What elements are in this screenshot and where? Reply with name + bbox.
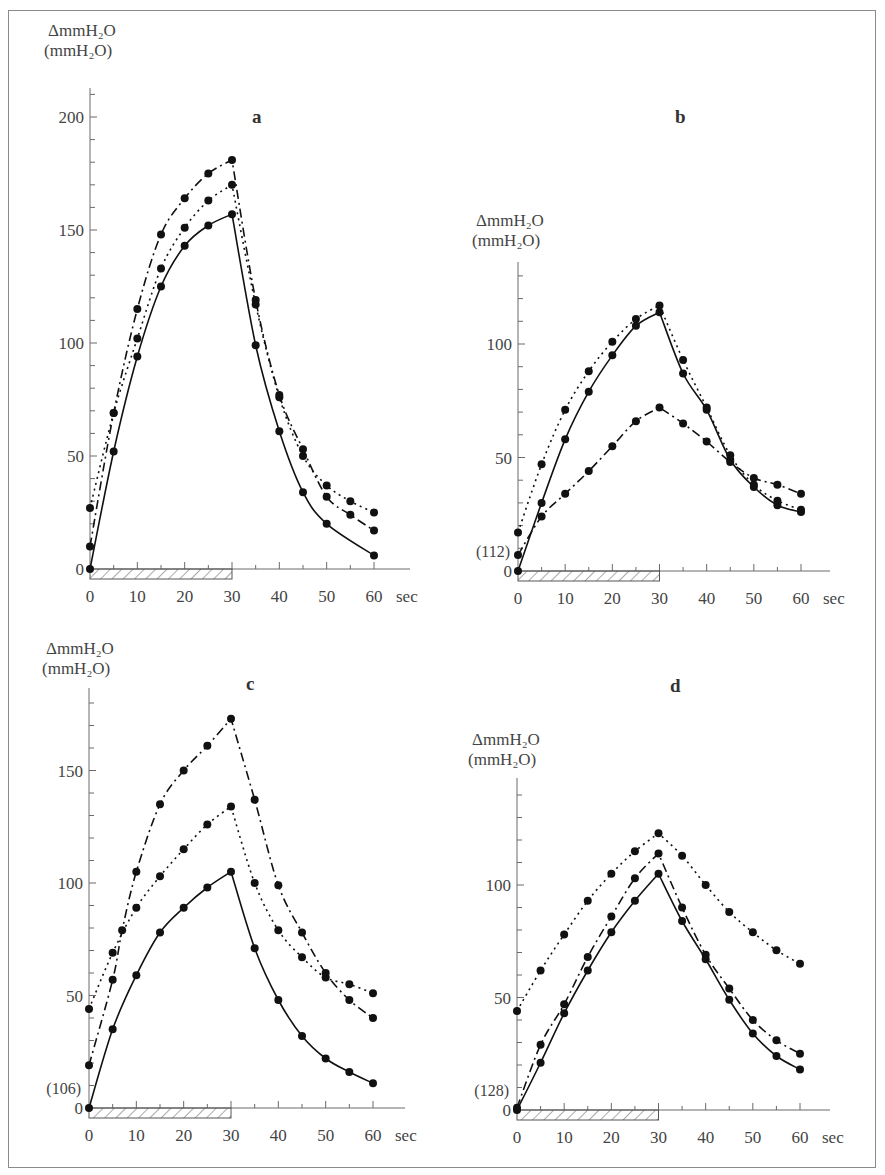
series-dotted-line [89, 807, 373, 1010]
x-axis-unit: sec [396, 587, 418, 606]
data-point [631, 874, 639, 882]
data-point [772, 1036, 780, 1044]
data-point [180, 845, 188, 853]
data-point [228, 181, 236, 189]
data-point [537, 1059, 545, 1067]
data-point [275, 391, 283, 399]
y-axis-unit-d: (mmH₂O) [468, 750, 536, 769]
y-axis-unit-a: (mmH₂O) [44, 41, 112, 60]
data-point [538, 460, 546, 468]
data-point [584, 897, 592, 905]
data-point [773, 481, 781, 489]
x-tick-label: 30 [651, 589, 668, 608]
x-tick-label: 60 [365, 1126, 382, 1145]
data-point [157, 264, 165, 272]
data-point [274, 881, 282, 889]
y-tick-label: 0 [75, 1099, 84, 1118]
series-dotted-line [90, 185, 374, 513]
y-tick-label: 100 [486, 876, 512, 895]
data-point [796, 1050, 804, 1058]
data-point [702, 881, 710, 889]
data-point [773, 497, 781, 505]
data-point [749, 928, 757, 936]
data-point [203, 742, 211, 750]
x-tick-label: 40 [697, 1128, 714, 1147]
data-point [585, 367, 593, 375]
data-point [85, 1104, 93, 1112]
panel-c: ΔmmH₂O(mmH₂O)c050100150(106)010203040506… [42, 639, 417, 1145]
data-point [298, 1032, 306, 1040]
data-point [725, 996, 733, 1004]
data-point [679, 356, 687, 364]
x-tick-label: 0 [514, 589, 523, 608]
data-point [655, 850, 663, 858]
data-point [514, 528, 522, 536]
data-point [274, 926, 282, 934]
x-tick-label: 60 [793, 589, 810, 608]
data-point [227, 803, 235, 811]
data-point [204, 197, 212, 205]
data-point [750, 474, 758, 482]
x-tick-label: 50 [318, 587, 335, 606]
data-point [796, 960, 804, 968]
data-point [513, 1007, 521, 1015]
data-point [369, 1014, 377, 1022]
data-point [251, 879, 259, 887]
stimulus-bar [90, 569, 232, 579]
y-tick-label: 150 [59, 221, 85, 240]
series-solid-line [90, 214, 374, 569]
figure-canvas: ΔmmH₂O(mmH₂O)a0501001502000102030405060s… [0, 0, 885, 1175]
data-point [345, 980, 353, 988]
data-point [132, 904, 140, 912]
data-point [725, 908, 733, 916]
data-point [157, 231, 165, 239]
data-point [656, 404, 664, 412]
x-tick-label: 40 [271, 587, 288, 606]
data-point [323, 481, 331, 489]
data-point [157, 283, 165, 291]
data-point [538, 513, 546, 521]
data-point [585, 467, 593, 475]
y-tick-label: 50 [495, 449, 512, 468]
data-point [749, 1030, 757, 1038]
series-solid-line [89, 872, 373, 1108]
data-point [678, 852, 686, 860]
data-point [181, 194, 189, 202]
data-point [656, 301, 664, 309]
data-point [750, 481, 758, 489]
series-dash-dot-line [517, 854, 800, 1108]
y-tick-label: 0 [504, 562, 513, 581]
data-point [584, 967, 592, 975]
x-tick-label: 30 [650, 1128, 667, 1147]
data-point [251, 944, 259, 952]
data-point [228, 156, 236, 164]
data-point [607, 913, 615, 921]
data-point [726, 458, 734, 466]
data-point [679, 419, 687, 427]
data-point [679, 370, 687, 378]
series-solid-line [517, 874, 800, 1110]
data-point [133, 305, 141, 313]
data-point [772, 946, 780, 954]
data-point [631, 897, 639, 905]
data-point [797, 490, 805, 498]
data-point [561, 406, 569, 414]
series-dash-dot-line [518, 408, 801, 556]
y-axis-label-a: ΔmmH₂O [48, 21, 116, 40]
data-point [203, 884, 211, 892]
x-axis-unit: sec [823, 589, 845, 608]
data-point [322, 969, 330, 977]
data-point [632, 417, 640, 425]
y-tick-label: 100 [487, 335, 513, 354]
data-point [204, 170, 212, 178]
data-point [560, 931, 568, 939]
data-point [133, 353, 141, 361]
x-tick-label: 60 [792, 1128, 809, 1147]
data-point [323, 520, 331, 528]
x-tick-label: 10 [128, 1126, 145, 1145]
x-tick-label: 10 [129, 587, 146, 606]
y-axis-unit-b: (mmH₂O) [472, 231, 540, 250]
data-point [632, 322, 640, 330]
x-tick-label: 50 [744, 1128, 761, 1147]
stimulus-bar [89, 1108, 231, 1118]
